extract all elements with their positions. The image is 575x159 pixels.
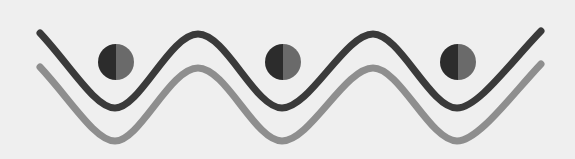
half-shaded-circle-icon [440,44,476,80]
wave-graphic [0,0,575,159]
half-shaded-circle-icon [265,44,301,80]
wave-illustration [0,0,575,159]
half-shaded-circle-icon [98,44,134,80]
